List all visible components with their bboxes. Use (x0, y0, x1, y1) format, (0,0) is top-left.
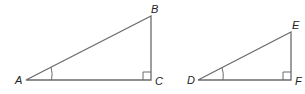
vertex-label-d: D (187, 74, 195, 86)
right-angle-c-mark (143, 72, 151, 80)
vertex-label-e: E (292, 19, 300, 31)
triangle-def: D E F (187, 19, 303, 87)
vertex-label-f: F (295, 75, 303, 87)
triangle-abc: A B C (14, 3, 163, 87)
similar-triangles-diagram: A B C D E F (0, 0, 305, 94)
angle-d-arc (222, 68, 223, 80)
angle-a-arc (51, 67, 52, 80)
triangle-abc-outline (26, 16, 151, 80)
vertex-label-b: B (151, 3, 158, 15)
right-angle-f-mark (283, 72, 291, 80)
triangle-def-outline (198, 32, 291, 80)
vertex-label-c: C (155, 75, 163, 87)
vertex-label-a: A (14, 74, 22, 86)
